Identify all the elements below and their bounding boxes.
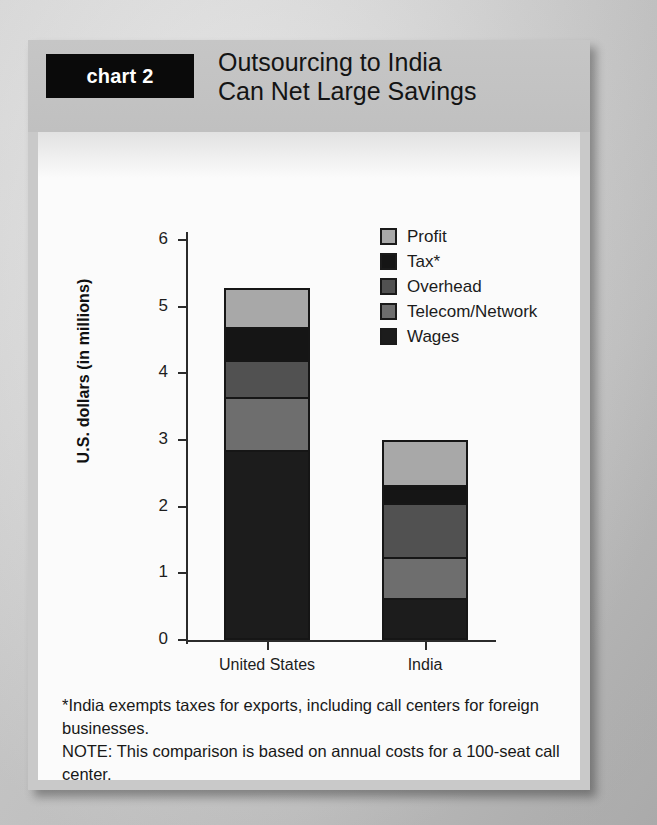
x-axis-tick: [425, 640, 427, 650]
bar-united-states: [224, 132, 310, 640]
y-axis-tick-label: 6: [142, 229, 168, 249]
y-axis-tick: [178, 572, 188, 574]
bar-segment-tax-: [382, 485, 468, 504]
bar-segment-overhead: [224, 360, 310, 397]
legend-item-telecom-network: Telecom/Network: [380, 299, 537, 324]
x-axis-tick: [267, 640, 269, 650]
legend-item-wages: Wages: [380, 324, 537, 349]
chart-notes: *India exempts taxes for exports, includ…: [62, 694, 562, 786]
legend-label: Overhead: [407, 277, 482, 297]
legend-label: Tax*: [407, 252, 440, 272]
legend-label: Telecom/Network: [407, 302, 537, 322]
y-axis: [186, 232, 188, 644]
bar-segment-wages: [382, 598, 468, 640]
legend-item-overhead: Overhead: [380, 274, 537, 299]
chart-panel: U.S. dollars (in millions) 0123456United…: [38, 132, 580, 780]
y-axis-tick: [178, 372, 188, 374]
bar-segment-telecom-network: [382, 557, 468, 598]
bar-segment-wages: [224, 450, 310, 640]
y-axis-tick: [178, 239, 188, 241]
legend-swatch-icon: [380, 228, 397, 245]
chart-title-line-1: Outsourcing to India: [218, 48, 578, 77]
y-axis-tick-label: 4: [142, 362, 168, 382]
chart-number-tag: chart 2: [46, 54, 194, 98]
chart-title: Outsourcing to India Can Net Large Savin…: [218, 48, 578, 106]
chart-title-line-2: Can Net Large Savings: [218, 77, 578, 106]
plot-area: U.S. dollars (in millions) 0123456United…: [38, 132, 580, 692]
bar-segment-profit: [224, 288, 310, 327]
note-text: NOTE: This comparison is based on annual…: [62, 740, 562, 786]
y-axis-tick-label: 1: [142, 562, 168, 582]
y-axis-tick: [178, 439, 188, 441]
bar-segment-telecom-network: [224, 397, 310, 450]
y-axis-tick: [178, 639, 188, 641]
chart-header: chart 2 Outsourcing to India Can Net Lar…: [28, 40, 590, 132]
y-axis-tick: [178, 306, 188, 308]
bar-segment-profit: [382, 440, 468, 485]
legend-swatch-icon: [380, 253, 397, 270]
y-axis-label: U.S. dollars (in millions): [75, 261, 93, 481]
legend-swatch-icon: [380, 328, 397, 345]
y-axis-tick-label: 0: [142, 629, 168, 649]
bar-india: [382, 132, 468, 640]
bar-segment-overhead: [382, 503, 468, 556]
legend-swatch-icon: [380, 303, 397, 320]
bar-segment-tax-: [224, 327, 310, 360]
legend-label: Wages: [407, 327, 459, 347]
y-axis-tick: [178, 506, 188, 508]
legend-item-tax-: Tax*: [380, 249, 537, 274]
chart-legend: ProfitTax*OverheadTelecom/NetworkWages: [380, 224, 537, 349]
x-axis-label: United States: [177, 656, 357, 674]
legend-swatch-icon: [380, 278, 397, 295]
footnote-text: *India exempts taxes for exports, includ…: [62, 694, 562, 740]
chart-card: chart 2 Outsourcing to India Can Net Lar…: [28, 40, 590, 790]
y-axis-tick-label: 5: [142, 296, 168, 316]
x-axis: [186, 640, 496, 642]
y-axis-tick-label: 3: [142, 429, 168, 449]
x-axis-label: India: [335, 656, 515, 674]
legend-item-profit: Profit: [380, 224, 537, 249]
legend-label: Profit: [407, 227, 447, 247]
y-axis-tick-label: 2: [142, 496, 168, 516]
